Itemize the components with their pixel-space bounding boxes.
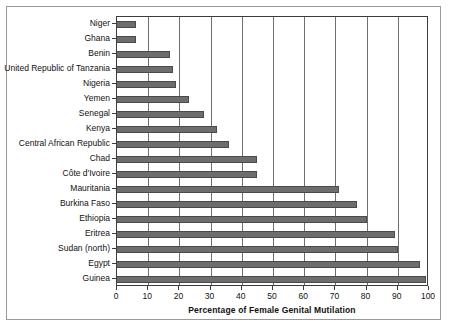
category-tick (112, 173, 116, 174)
category-tick (112, 98, 116, 99)
x-axis-title: Percentage of Female Genital Mutilation (116, 305, 428, 315)
bar-row (117, 272, 429, 287)
bar-row (117, 32, 429, 47)
category-tick (112, 158, 116, 159)
x-tick (241, 286, 242, 290)
category-tick (112, 23, 116, 24)
bar-row (117, 137, 429, 152)
x-tick (272, 286, 273, 290)
category-tick (112, 113, 116, 114)
x-tick-label: 20 (163, 291, 193, 301)
x-tick-label: 90 (382, 291, 412, 301)
category-tick (112, 248, 116, 249)
bar (117, 231, 395, 238)
bar-row (117, 227, 429, 242)
bar (117, 186, 339, 193)
bar (117, 51, 170, 58)
bar (117, 246, 398, 253)
category-label: Benin (88, 49, 110, 58)
bar-row (117, 182, 429, 197)
category-label: Sudan (north) (58, 244, 110, 253)
bar (117, 126, 217, 133)
bar-row (117, 107, 429, 122)
category-label: Yemen (84, 94, 110, 103)
bar (117, 261, 420, 268)
bar (117, 216, 367, 223)
category-tick (112, 83, 116, 84)
category-label: Burkina Faso (60, 199, 110, 208)
bar-row (117, 197, 429, 212)
x-tick-label: 100 (413, 291, 443, 301)
bar-row (117, 257, 429, 272)
bar (117, 111, 204, 118)
x-tick-label: 30 (195, 291, 225, 301)
x-tick (116, 286, 117, 290)
bar-row (117, 242, 429, 257)
category-label: Central African Republic (19, 139, 110, 148)
category-tick (112, 233, 116, 234)
category-label: Chad (90, 154, 110, 163)
x-tick-label: 40 (226, 291, 256, 301)
bar (117, 36, 136, 43)
category-label: Kenya (86, 124, 110, 133)
x-tick (210, 286, 211, 290)
x-tick (178, 286, 179, 290)
x-tick-label: 10 (132, 291, 162, 301)
bar-row (117, 212, 429, 227)
category-tick (112, 263, 116, 264)
category-label: Niger (90, 19, 110, 28)
figure: NigerGhanaBeninUnited Republic of Tanzan… (0, 0, 449, 328)
category-label: Eritrea (85, 229, 110, 238)
bar (117, 96, 189, 103)
x-tick (366, 286, 367, 290)
category-tick (112, 278, 116, 279)
category-label: Senegal (79, 109, 110, 118)
bar (117, 201, 357, 208)
bar (117, 21, 136, 28)
bar-row (117, 92, 429, 107)
category-tick (112, 68, 116, 69)
bar-rows (117, 17, 427, 285)
category-label: Egypt (88, 259, 110, 268)
x-tick (334, 286, 335, 290)
bar-row (117, 152, 429, 167)
category-tick (112, 188, 116, 189)
category-label: United Republic of Tanzania (4, 64, 110, 73)
bar (117, 156, 257, 163)
bar (117, 276, 426, 283)
bar (117, 81, 176, 88)
category-tick (112, 38, 116, 39)
x-tick (428, 286, 429, 290)
bar (117, 141, 229, 148)
x-tick-label: 70 (319, 291, 349, 301)
category-tick (112, 128, 116, 129)
x-tick (147, 286, 148, 290)
category-tick (112, 203, 116, 204)
x-tick (303, 286, 304, 290)
bar (117, 66, 173, 73)
category-tick (112, 143, 116, 144)
category-label: Guinea (83, 274, 110, 283)
x-tick (397, 286, 398, 290)
category-label: Ethiopia (79, 214, 110, 223)
plot-area (116, 16, 428, 286)
bar-row (117, 47, 429, 62)
category-label: Côte d'Ivoire (63, 169, 110, 178)
category-label: Mauritania (70, 184, 110, 193)
bar-row (117, 122, 429, 137)
bar-row (117, 77, 429, 92)
bar-row (117, 62, 429, 77)
category-label: Ghana (84, 34, 110, 43)
category-tick (112, 218, 116, 219)
x-tick-label: 50 (257, 291, 287, 301)
category-tick (112, 53, 116, 54)
bar-row (117, 167, 429, 182)
x-tick-label: 80 (351, 291, 381, 301)
x-tick-label: 0 (101, 291, 131, 301)
x-tick-label: 60 (288, 291, 318, 301)
category-label: Nigeria (83, 79, 110, 88)
bar-row (117, 17, 429, 32)
bar (117, 171, 257, 178)
